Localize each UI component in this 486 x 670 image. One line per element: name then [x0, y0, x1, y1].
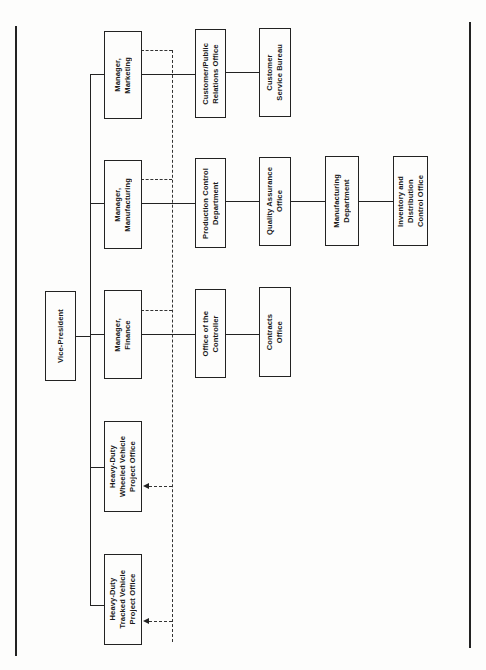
label-manager-manufacturing: Manager, Manufacturing: [113, 178, 133, 232]
connector-marketing-cpr: [141, 74, 195, 75]
connector-qao-md: [290, 201, 325, 202]
box-vice-president: Vice-President: [45, 291, 76, 381]
dashed-coordination-bus: [172, 50, 173, 642]
connector-md-idco: [358, 201, 393, 202]
box-customer-service-bureau: Customer Service Bureau: [259, 28, 291, 117]
connector-manufacturing-pcd: [141, 203, 195, 204]
label-inventory-distribution-control-office: Inventory and Distribution Control Offic…: [396, 175, 426, 227]
connector-spine-marketing: [90, 74, 104, 75]
connector-spine-wheeled: [90, 467, 104, 468]
connector-spine-finance: [90, 334, 104, 335]
label-vice-president: Vice-President: [56, 309, 66, 363]
manager-spine: [90, 74, 91, 605]
connector-vp-spine: [75, 336, 90, 337]
box-quality-assurance-office: Quality Assurance Office: [259, 157, 291, 246]
label-office-of-the-controller: Office of the Controller: [201, 311, 221, 357]
label-wheeled-vehicle-project-office: Heavy-Duty Wheeled Vehicle Project Offic…: [108, 436, 138, 497]
box-manager-manufacturing: Manager, Manufacturing: [104, 160, 142, 249]
box-tracked-vehicle-project-office: Heavy-Duty Tracked Vehicle Project Offic…: [104, 554, 142, 645]
label-manager-marketing: Manager, Marketing: [113, 57, 133, 94]
arrow-to-tracked-icon: [143, 618, 149, 624]
connector-otc-co: [225, 334, 259, 335]
label-manager-finance: Manager, Finance: [113, 318, 133, 352]
dashed-to-tracked: [149, 621, 172, 622]
arrow-to-wheeled-icon: [143, 483, 149, 489]
label-production-control-department: Production Control Department: [201, 168, 221, 239]
label-tracked-vehicle-project-office: Heavy-Duty Tracked Vehicle Project Offic…: [108, 570, 138, 629]
connector-spine-manufacturing: [90, 203, 104, 204]
box-manufacturing-department: Manufacturing Department: [325, 156, 359, 246]
connector-cpr-csb: [225, 72, 259, 73]
label-contracts-office: Contracts Office: [265, 314, 285, 350]
box-wheeled-vehicle-project-office: Heavy-Duty Wheeled Vehicle Project Offic…: [104, 421, 142, 512]
label-customer-service-bureau: Customer Service Bureau: [265, 44, 285, 101]
box-inventory-distribution-control-office: Inventory and Distribution Control Offic…: [393, 156, 428, 246]
box-customer-public-relations-office: Customer/Public Relations Office: [195, 29, 226, 118]
connector-pcd-qao: [225, 201, 259, 202]
label-quality-assurance-office: Quality Assurance Office: [265, 167, 285, 235]
connector-finance-otc: [141, 334, 195, 335]
dashed-marketing-stub: [141, 50, 172, 51]
box-manager-marketing: Manager, Marketing: [104, 31, 142, 119]
label-manufacturing-department: Manufacturing Department: [332, 174, 352, 228]
box-office-of-the-controller: Office of the Controller: [195, 289, 226, 378]
right-page-rule: [469, 22, 471, 648]
box-contracts-office: Contracts Office: [259, 287, 291, 377]
left-page-rule: [15, 26, 17, 656]
connector-spine-tracked: [90, 605, 104, 606]
label-customer-public-relations-office: Customer/Public Relations Office: [201, 43, 221, 105]
box-manager-finance: Manager, Finance: [104, 290, 142, 379]
dashed-to-wheeled: [149, 486, 172, 487]
box-production-control-department: Production Control Department: [195, 158, 226, 248]
dashed-finance-stub: [141, 310, 172, 311]
dashed-manufacturing-stub: [141, 179, 172, 180]
